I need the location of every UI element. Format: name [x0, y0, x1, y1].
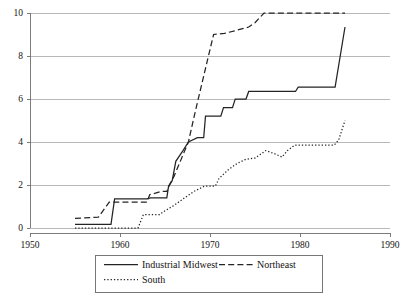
legend-label-industrial-midwest: Industrial Midwest — [142, 259, 218, 270]
series-line-industrial-midwest — [75, 27, 345, 224]
y-tick-label-8: 8 — [18, 51, 23, 61]
y-tick-label-0: 0 — [18, 223, 23, 233]
chart-legend: Industrial MidwestNortheastSouth — [95, 255, 322, 292]
y-tick-label-2: 2 — [18, 180, 23, 190]
x-tick-label-1990: 1990 — [381, 240, 400, 250]
x-axis-tick-labels: 19501960197019801990 — [21, 240, 400, 250]
y-tick-marks-group — [27, 13, 31, 228]
y-tick-label-4: 4 — [18, 137, 23, 147]
data-series-group — [75, 13, 345, 228]
x-tick-label-1970: 1970 — [201, 240, 220, 250]
chart-canvas: 0246810 19501960197019801990 Industrial … — [0, 0, 401, 303]
line-chart: 0246810 19501960197019801990 Industrial … — [0, 0, 401, 303]
legend-label-south: South — [142, 274, 165, 285]
axis-lines-group — [30, 13, 390, 233]
series-line-south — [75, 121, 345, 229]
legend-label-northeast: Northeast — [257, 259, 296, 270]
y-axis-tick-labels: 0246810 — [14, 8, 24, 233]
x-tick-label-1960: 1960 — [111, 240, 130, 250]
x-tick-marks-group — [30, 233, 390, 237]
gridlines-group — [30, 13, 390, 228]
x-tick-label-1980: 1980 — [291, 240, 310, 250]
y-tick-label-6: 6 — [18, 94, 23, 104]
x-tick-label-1950: 1950 — [21, 240, 40, 250]
y-tick-label-10: 10 — [14, 8, 24, 18]
